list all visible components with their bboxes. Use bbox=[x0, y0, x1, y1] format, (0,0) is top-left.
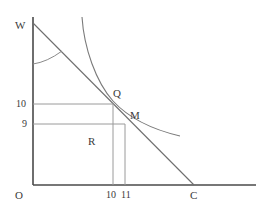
y-axis-label-w: W bbox=[15, 20, 25, 31]
x-axis-label-c: C bbox=[190, 190, 197, 201]
y-tick-label-10: 10 bbox=[16, 99, 26, 109]
angle-arc bbox=[33, 51, 62, 64]
point-label-q: Q bbox=[113, 88, 121, 99]
point-label-r: R bbox=[88, 136, 95, 147]
origin-label: O bbox=[15, 190, 23, 201]
x-tick-label-10: 10 bbox=[106, 190, 116, 200]
economics-indifference-curve-figure: W C O Q M R 10 9 10 11 bbox=[0, 0, 265, 217]
point-label-m: M bbox=[130, 110, 140, 121]
y-tick-label-9: 9 bbox=[22, 119, 27, 129]
x-tick-label-11: 11 bbox=[121, 190, 131, 200]
